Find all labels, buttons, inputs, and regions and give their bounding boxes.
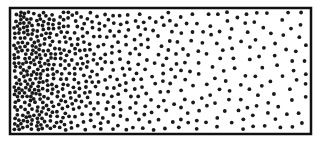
- dot: [157, 53, 161, 57]
- dot: [140, 85, 144, 89]
- dot: [20, 49, 24, 53]
- dot: [85, 65, 89, 69]
- dot: [118, 49, 122, 53]
- dot: [168, 19, 172, 23]
- dot: [132, 78, 136, 82]
- dot: [63, 123, 67, 127]
- dot: [88, 101, 92, 105]
- dot: [95, 15, 99, 19]
- dot: [208, 93, 212, 97]
- dot: [74, 19, 78, 23]
- dot: [46, 22, 50, 26]
- dot: [223, 109, 227, 113]
- dot: [205, 82, 209, 86]
- dot: [126, 61, 130, 65]
- dot: [141, 126, 145, 130]
- dot: [92, 107, 96, 111]
- dot: [112, 105, 116, 109]
- dot: [14, 89, 18, 93]
- dot: [22, 75, 26, 79]
- dot: [43, 37, 47, 41]
- dot: [297, 35, 301, 39]
- dot: [22, 68, 26, 72]
- dot: [272, 92, 276, 96]
- dot: [289, 27, 293, 31]
- dot: [17, 127, 21, 131]
- dot: [63, 67, 67, 71]
- dot: [196, 49, 200, 53]
- dot: [16, 56, 20, 60]
- dot: [14, 75, 18, 79]
- dot: [92, 58, 96, 62]
- dot: [44, 14, 48, 18]
- dot: [26, 111, 30, 115]
- dot: [209, 33, 213, 37]
- dot: [197, 72, 201, 76]
- dot: [55, 114, 59, 118]
- dot: [66, 10, 70, 14]
- dot: [146, 38, 150, 42]
- dot: [47, 63, 51, 67]
- dot: [273, 54, 277, 58]
- dot: [73, 47, 77, 51]
- dot: [222, 69, 226, 73]
- dot: [252, 20, 256, 24]
- dot: [35, 19, 39, 23]
- dot: [211, 65, 215, 69]
- dot: [189, 39, 193, 43]
- dot: [85, 31, 89, 35]
- dot: [41, 87, 45, 91]
- dot: [16, 41, 20, 45]
- dot: [73, 31, 77, 35]
- dot: [75, 25, 79, 29]
- dot: [46, 73, 50, 77]
- dot: [18, 21, 22, 25]
- dot: [72, 107, 76, 111]
- dot: [59, 99, 63, 103]
- dot: [42, 20, 46, 24]
- dot: [273, 42, 277, 46]
- dot: [38, 93, 42, 97]
- dot: [51, 110, 55, 114]
- dot: [81, 62, 85, 66]
- dot: [119, 22, 123, 26]
- dot: [39, 17, 43, 21]
- dot: [134, 111, 138, 115]
- dot: [50, 92, 54, 96]
- dot: [41, 69, 45, 73]
- dot: [61, 116, 65, 120]
- dot: [66, 16, 70, 20]
- dot: [86, 60, 90, 64]
- dot: [148, 16, 152, 20]
- dot: [28, 88, 32, 92]
- dot: [215, 125, 219, 129]
- dot: [28, 115, 32, 119]
- dot: [227, 98, 231, 102]
- dot: [19, 82, 23, 86]
- dot: [102, 43, 106, 47]
- dot: [44, 112, 48, 116]
- dot: [51, 72, 55, 76]
- dot: [69, 96, 73, 100]
- dot: [62, 94, 66, 98]
- dot: [57, 103, 61, 107]
- dot: [92, 35, 96, 39]
- dot: [62, 48, 66, 52]
- dot: [105, 86, 109, 90]
- dot: [224, 79, 228, 83]
- dot: [86, 17, 90, 21]
- dot: [266, 111, 270, 115]
- dot: [12, 53, 16, 57]
- dot: [161, 72, 165, 76]
- dot: [63, 111, 67, 115]
- dot: [139, 43, 143, 47]
- dot: [36, 67, 40, 71]
- dot: [124, 81, 128, 85]
- dot: [108, 29, 112, 33]
- dot: [128, 52, 132, 56]
- dot: [22, 15, 26, 19]
- dot: [25, 73, 29, 77]
- dot: [236, 16, 240, 20]
- dot: [84, 80, 88, 84]
- dot: [165, 56, 169, 60]
